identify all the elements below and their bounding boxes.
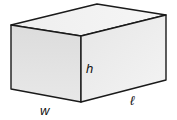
box-diagram: h w ℓ xyxy=(0,0,177,120)
height-label: h xyxy=(86,62,93,75)
rectangular-prism xyxy=(0,0,177,120)
width-label: w xyxy=(40,104,49,117)
front-face xyxy=(11,25,81,102)
length-label: ℓ xyxy=(130,94,134,107)
